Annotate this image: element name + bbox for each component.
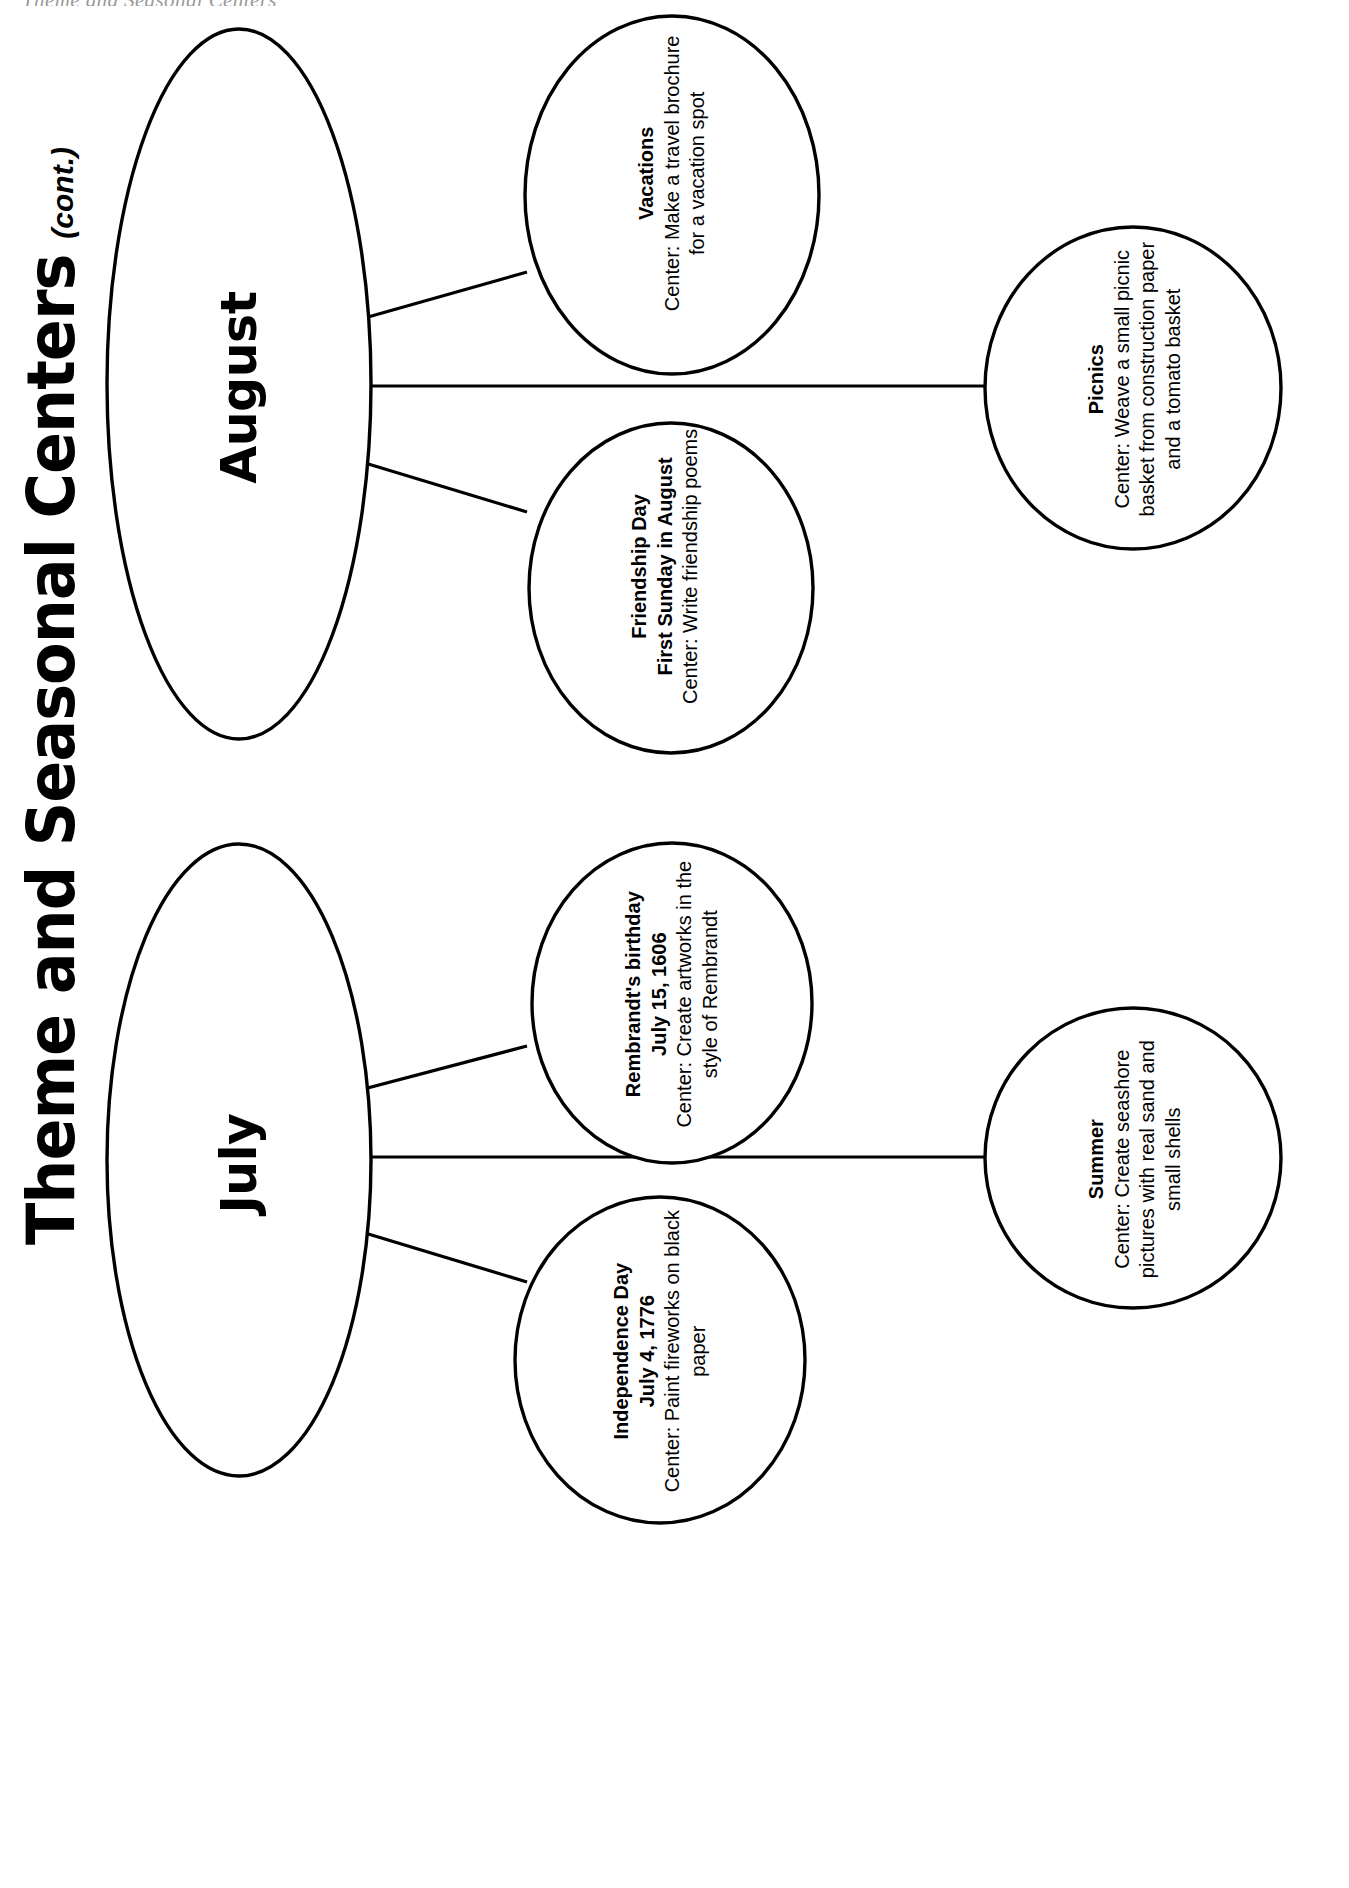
oval-rembrandts-birthday	[532, 843, 812, 1163]
oval-summer	[985, 1008, 1281, 1308]
oval-picnics	[985, 227, 1281, 549]
oval-friendship-day	[529, 423, 813, 753]
month-label-july: July	[211, 1064, 268, 1264]
concept-map-diagram	[0, 0, 1349, 1888]
oval-independence-day	[515, 1197, 805, 1523]
oval-vacations	[525, 16, 819, 374]
month-label-august: August	[211, 288, 268, 488]
